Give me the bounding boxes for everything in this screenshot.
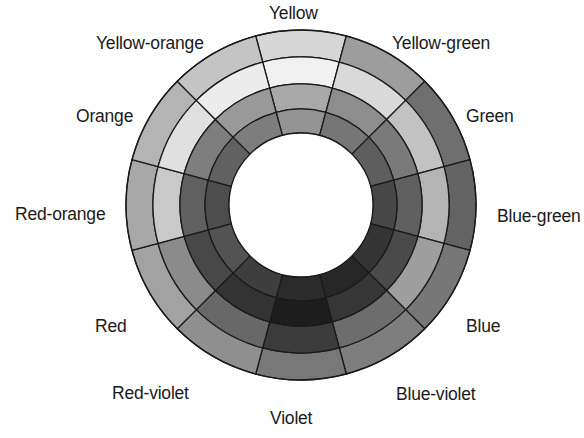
wheel-segment-red-orange-third-ring <box>180 174 208 237</box>
hue-label-yellow-green: Yellow-green <box>392 35 490 53</box>
wheel-center-hole <box>229 133 373 277</box>
hue-label-orange: Orange <box>76 108 133 126</box>
hue-label-yellow: Yellow <box>269 5 318 23</box>
hue-label-yellow-orange: Yellow-orange <box>96 35 204 53</box>
hue-label-red-violet: Red-violet <box>112 385 189 403</box>
hue-label-green: Green <box>466 108 514 126</box>
wheel-segment-blue-green-inner-ring <box>371 180 397 230</box>
wheel-segment-red-orange-inner-ring <box>205 180 231 230</box>
hue-label-red: Red <box>95 318 127 336</box>
hue-label-blue-violet: Blue-violet <box>396 386 476 404</box>
wheel-segment-violet-third-ring <box>270 298 333 326</box>
hue-label-blue: Blue <box>466 318 500 336</box>
wheel-segment-yellow-inner-ring <box>276 109 326 135</box>
hue-label-blue-green: Blue-green <box>497 208 581 226</box>
hue-label-red-orange: Red-orange <box>15 206 105 224</box>
wheel-segment-violet-inner-ring <box>276 275 326 301</box>
wheel-segment-yellow-third-ring <box>270 84 333 112</box>
hue-label-violet: Violet <box>270 410 312 428</box>
wheel-sectors <box>126 30 476 380</box>
wheel-segment-blue-green-third-ring <box>394 174 422 237</box>
color-wheel-diagram: YellowYellow-greenGreenBlue-greenBlueBlu… <box>0 0 584 438</box>
